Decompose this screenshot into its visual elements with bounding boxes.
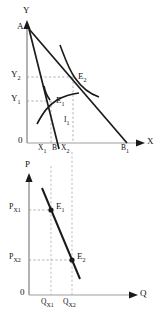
top-y-axis-arrowhead	[23, 20, 30, 29]
qx2-tick-sub: X2	[68, 302, 75, 308]
px1-label: PX1	[9, 203, 21, 213]
bottom-p-axis-label: P	[25, 160, 30, 169]
demand-point-e2	[69, 257, 74, 262]
qx1-tick-label: QX1	[41, 298, 54, 308]
top-e1-label-sub: 1	[62, 101, 65, 107]
top-panel-indifference-curves	[37, 45, 99, 124]
qx1-tick-sub: X1	[46, 302, 53, 308]
x2-tick-label: X2	[61, 144, 69, 154]
top-e2-label-sub: 2	[84, 77, 87, 83]
x1-tick-label: X1	[38, 144, 46, 154]
top-panel-axes	[23, 20, 145, 147]
demand-point-e1	[48, 207, 53, 212]
b1-tick-label: B1	[121, 144, 129, 154]
bottom-e1-label-sub: 1	[62, 207, 65, 213]
top-x-axis-arrowhead	[136, 139, 145, 146]
indifference-curve-1-label: I1	[64, 116, 70, 126]
top-e1-label: E1	[56, 96, 65, 107]
px2-label-sub: X2	[13, 257, 20, 263]
top-panel-budget-lines	[29, 29, 127, 149]
top-e2-label: E2	[78, 72, 87, 83]
x1-tick-sub: 1	[43, 148, 46, 154]
bottom-p-axis-arrowhead	[25, 173, 32, 182]
top-x-axis-label: X	[147, 137, 154, 146]
y2-label: Y2	[11, 70, 21, 81]
bottom-e2-label-sub: 2	[83, 257, 86, 263]
bottom-e1-label: E1	[56, 202, 65, 213]
bottom-origin-label: 0	[20, 288, 25, 297]
economics-figure: Y X 0 A Y2 Y1 E2 E1 I1 X1 B X2 B1 P Q 0 …	[0, 0, 163, 317]
y2-label-sub: 2	[18, 75, 21, 81]
top-y-axis-label: Y	[23, 6, 30, 15]
top-origin-label: 0	[18, 136, 23, 145]
px1-label-sub: X1	[13, 207, 20, 213]
y1-label: Y1	[11, 94, 21, 105]
y1-label-sub: 1	[18, 99, 21, 105]
bottom-q-axis-arrowhead	[129, 291, 138, 298]
px2-label: PX2	[9, 253, 21, 263]
i1-label-sub: 1	[67, 120, 70, 126]
b1-tick-sub: 1	[126, 148, 129, 154]
bottom-panel-axes	[25, 173, 138, 299]
x2-tick-sub: 2	[66, 148, 69, 154]
bottom-q-axis-label: Q	[140, 289, 147, 298]
bottom-panel-guides	[29, 152, 72, 295]
qx2-tick-label: QX2	[63, 298, 76, 308]
bottom-e2-label: E2	[77, 252, 86, 263]
b-tick-label: B	[52, 144, 57, 152]
point-a-label: A	[17, 22, 24, 31]
